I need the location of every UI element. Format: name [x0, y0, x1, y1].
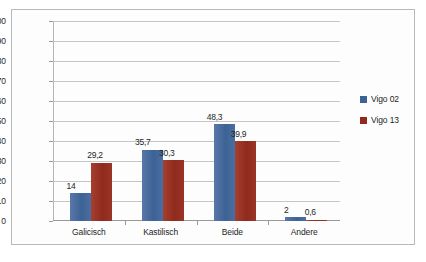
bar-value-label: 39,9: [219, 130, 259, 139]
y-axis-tick-label: 70: [0, 77, 6, 86]
y-axis-tick-label: 20: [0, 177, 6, 186]
legend-swatch-icon: [360, 96, 367, 103]
bar[interactable]: [70, 193, 91, 221]
y-axis-tick-label: 50: [0, 117, 6, 126]
bar-value-label: 14: [51, 182, 91, 191]
y-axis-tick-label: 80: [0, 57, 6, 66]
legend-item[interactable]: Vigo 02: [360, 94, 414, 104]
bar[interactable]: [285, 217, 306, 221]
legend-swatch-icon: [360, 117, 367, 124]
legend-label: Vigo 13: [371, 115, 399, 125]
bar-group: 1429,2: [53, 21, 125, 221]
plot-area: 0102030405060708090100 1429,235,730,348,…: [53, 21, 340, 221]
bar[interactable]: [214, 124, 235, 221]
x-axis-tick-mark: [268, 221, 269, 225]
legend-label: Vigo 02: [371, 94, 399, 104]
bar-value-label: 30,3: [147, 149, 187, 158]
bar-value-label: 29,2: [75, 151, 115, 160]
bar-value-label: 35,7: [123, 138, 163, 147]
y-axis-tick-label: 100: [0, 17, 6, 26]
bar-group: 20,6: [268, 21, 340, 221]
bar[interactable]: [163, 160, 184, 221]
y-axis-tick-label: 90: [0, 37, 6, 46]
x-axis-tick-mark: [197, 221, 198, 225]
bar[interactable]: [306, 220, 327, 222]
legend-item[interactable]: Vigo 13: [360, 115, 414, 125]
y-axis-tick-label: 30: [0, 157, 6, 166]
bar-group: 35,730,3: [125, 21, 197, 221]
chart-figure: 0102030405060708090100 1429,235,730,348,…: [11, 9, 415, 245]
bar[interactable]: [235, 141, 256, 221]
y-axis-tick-mark: [49, 221, 53, 222]
x-axis-category-label: Andere: [259, 227, 349, 237]
x-axis-tick-mark: [125, 221, 126, 225]
y-axis-tick-label: 40: [0, 137, 6, 146]
bar-value-label: 0,6: [290, 208, 330, 217]
bar[interactable]: [91, 163, 112, 221]
chart-legend: Vigo 02Vigo 13: [360, 94, 414, 136]
y-axis-tick-label: 0: [0, 217, 6, 226]
y-axis-tick-label: 60: [0, 97, 6, 106]
bar[interactable]: [142, 150, 163, 221]
bar-group: 48,339,9: [197, 21, 269, 221]
y-axis-tick-label: 10: [0, 197, 6, 206]
bar-value-label: 48,3: [195, 113, 235, 122]
